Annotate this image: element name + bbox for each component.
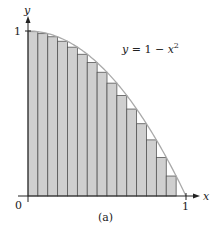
- rectangle: [166, 176, 176, 196]
- rectangle: [127, 109, 137, 196]
- rectangle: [137, 124, 147, 196]
- rectangle: [156, 157, 166, 196]
- rectangle: [97, 72, 107, 196]
- rectangles: [28, 32, 176, 196]
- rectangle: [147, 140, 157, 196]
- curve-equation: y = 1 − x2: [121, 41, 179, 56]
- rectangle: [117, 96, 127, 196]
- y-axis-arrow-icon: [26, 16, 31, 23]
- rectangle: [107, 83, 117, 196]
- riemann-sum-figure: y 1 0 1 x y = 1 − x2 (a): [0, 0, 220, 225]
- rectangle: [87, 63, 97, 196]
- rectangle: [28, 32, 38, 196]
- exponent: 2: [174, 41, 179, 50]
- origin-label: 0: [15, 199, 22, 212]
- figure-caption: (a): [98, 211, 113, 224]
- rectangle: [38, 34, 48, 196]
- x-tick-label-1: 1: [182, 200, 189, 213]
- x-axis-arrow-icon: [193, 194, 200, 199]
- y-tick-label-1: 1: [14, 25, 21, 38]
- rectangle: [77, 54, 87, 196]
- x-axis-label: x: [203, 190, 210, 203]
- rectangle: [58, 41, 68, 196]
- y-axis-label: y: [23, 4, 31, 17]
- rectangle: [48, 37, 58, 196]
- rectangle: [68, 47, 78, 196]
